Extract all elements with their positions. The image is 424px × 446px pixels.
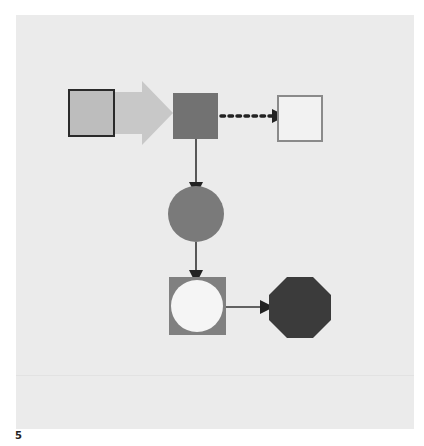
end-octagon [269,277,331,338]
source-square [69,90,114,136]
block-arrow [114,81,173,145]
page-number: 5 [15,430,22,442]
framed-circle-inner [171,280,223,332]
target-square [278,96,322,141]
process-square [173,93,218,139]
process-circle [168,186,224,242]
flow-diagram [0,0,424,446]
